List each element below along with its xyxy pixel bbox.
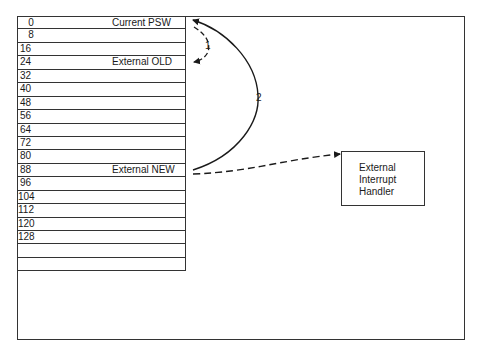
handler-line: External (359, 162, 424, 174)
arrow-to-handler (193, 154, 340, 174)
external-interrupt-handler-box: External Interrupt Handler (341, 151, 425, 206)
arrow-step-2 (193, 20, 258, 170)
step-1-label: 1 (205, 40, 211, 51)
handler-line: Interrupt (359, 174, 424, 186)
handler-line: Handler (359, 186, 424, 198)
step-2-label: 2 (256, 92, 262, 103)
